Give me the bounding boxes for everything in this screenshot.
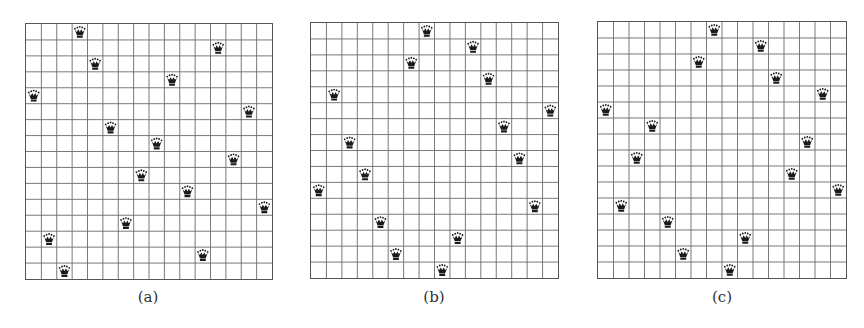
queen-icon <box>498 121 510 133</box>
queen-icon <box>313 184 325 196</box>
queen-icon <box>514 152 526 164</box>
queen-icon <box>786 168 798 180</box>
queen-icon <box>182 185 193 197</box>
queen-icon <box>105 122 116 134</box>
queen-icon <box>259 201 270 213</box>
queen-icon <box>708 24 720 36</box>
queen-icon <box>545 105 557 117</box>
queen-icon <box>615 200 627 212</box>
board-b-grid <box>311 23 558 278</box>
queen-icon <box>359 168 371 180</box>
caption-b: (b) <box>404 288 464 306</box>
queen-icon <box>120 217 131 229</box>
caption-a: (a) <box>118 288 178 306</box>
board-a-grid <box>26 24 272 279</box>
queen-icon <box>43 233 54 245</box>
board-a <box>25 23 273 280</box>
queen-icon <box>646 120 658 132</box>
queen-icon <box>328 89 340 101</box>
queen-icon <box>631 152 643 164</box>
queen-icon <box>390 248 402 260</box>
queen-icon <box>467 41 479 53</box>
queen-icon <box>801 136 813 148</box>
queen-icon <box>832 184 844 196</box>
queen-icon <box>212 42 223 54</box>
queen-icon <box>483 73 495 85</box>
queen-icon <box>151 137 162 149</box>
queen-icon <box>739 232 751 244</box>
queen-icon <box>228 153 239 165</box>
queen-icon <box>74 26 85 38</box>
board-c <box>597 21 847 279</box>
queen-icon <box>406 57 418 69</box>
queen-icon <box>375 216 387 228</box>
queen-icon <box>197 249 208 261</box>
queen-icon <box>421 25 433 37</box>
queen-icon <box>452 232 464 244</box>
queen-icon <box>243 106 254 118</box>
board-b <box>310 22 559 279</box>
queen-icon <box>662 216 674 228</box>
board-c-grid <box>598 22 846 278</box>
queen-icon <box>166 74 177 86</box>
queen-icon <box>600 104 612 116</box>
queen-icon <box>677 248 689 260</box>
queen-icon <box>755 40 767 52</box>
queen-icon <box>136 169 147 181</box>
queen-icon <box>28 90 39 102</box>
queen-icon <box>693 56 705 68</box>
caption-c: (c) <box>692 288 752 306</box>
queen-icon <box>59 265 70 277</box>
queen-icon <box>529 200 541 212</box>
queen-icon <box>724 264 736 276</box>
queen-icon <box>817 88 829 100</box>
queen-icon <box>436 264 448 276</box>
queen-icon <box>89 58 100 70</box>
queen-icon <box>770 72 782 84</box>
queen-icon <box>344 136 356 148</box>
